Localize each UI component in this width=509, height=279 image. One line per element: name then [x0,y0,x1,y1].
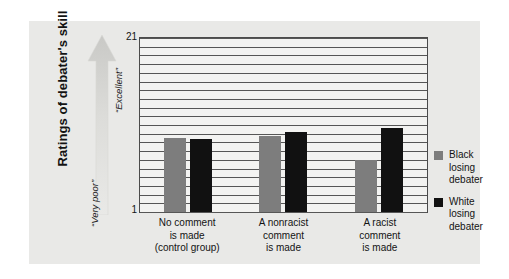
legend-swatch-icon [434,198,443,207]
category-label-line: A nonracist [237,217,329,230]
legend-swatch-icon [434,151,443,160]
legend-label-line: White [449,196,483,209]
y-axis-title: Ratings of debater's skill [55,4,70,174]
legend-label: Whitelosingdebater [449,196,483,234]
bar-group [355,38,403,212]
legend-item[interactable]: Blacklosingdebater [434,149,504,187]
legend-label-line: debater [449,174,483,187]
legend-label: Blacklosingdebater [449,149,483,187]
category-label-line: is made [334,242,426,255]
category-label-line: A racist [334,217,426,230]
scale-anchor-low-label: “Very poor” [89,180,100,227]
chart-figure: Ratings of debater's skill “Excellent” “… [29,21,480,264]
bar-groups [140,38,427,212]
category-label-line: (control group) [141,242,233,255]
y-axis-tick-top: 21 [115,31,137,42]
legend-label-line: debater [449,221,483,234]
category-label: A racistcommentis made [334,217,426,255]
x-axis-category-labels: No commentis made(control group)A nonrac… [139,217,428,255]
category-label-line: comment [334,230,426,243]
category-label-line: comment [237,230,329,243]
category-label-line: is made [237,242,329,255]
bar [259,136,281,212]
legend-item[interactable]: Whitelosingdebater [434,196,504,234]
bar [164,138,186,212]
plot-area [139,37,428,213]
chart-legend: BlacklosingdebaterWhitelosingdebater [434,149,504,242]
scale-anchor-high-label: “Excellent” [113,68,124,113]
legend-label-line: losing [449,208,483,221]
bar [285,132,307,212]
bar [381,128,403,212]
legend-label-line: Black [449,149,483,162]
y-axis-tick-bottom: 1 [115,204,137,215]
bar [190,139,212,212]
gridline [140,212,427,213]
bar [355,160,377,212]
category-label: A nonracistcommentis made [237,217,329,255]
category-label-line: is made [141,230,233,243]
bar-group [259,38,307,212]
legend-label-line: losing [449,162,483,175]
bar-group [164,38,212,212]
category-label-line: No comment [141,217,233,230]
category-label: No commentis made(control group) [141,217,233,255]
